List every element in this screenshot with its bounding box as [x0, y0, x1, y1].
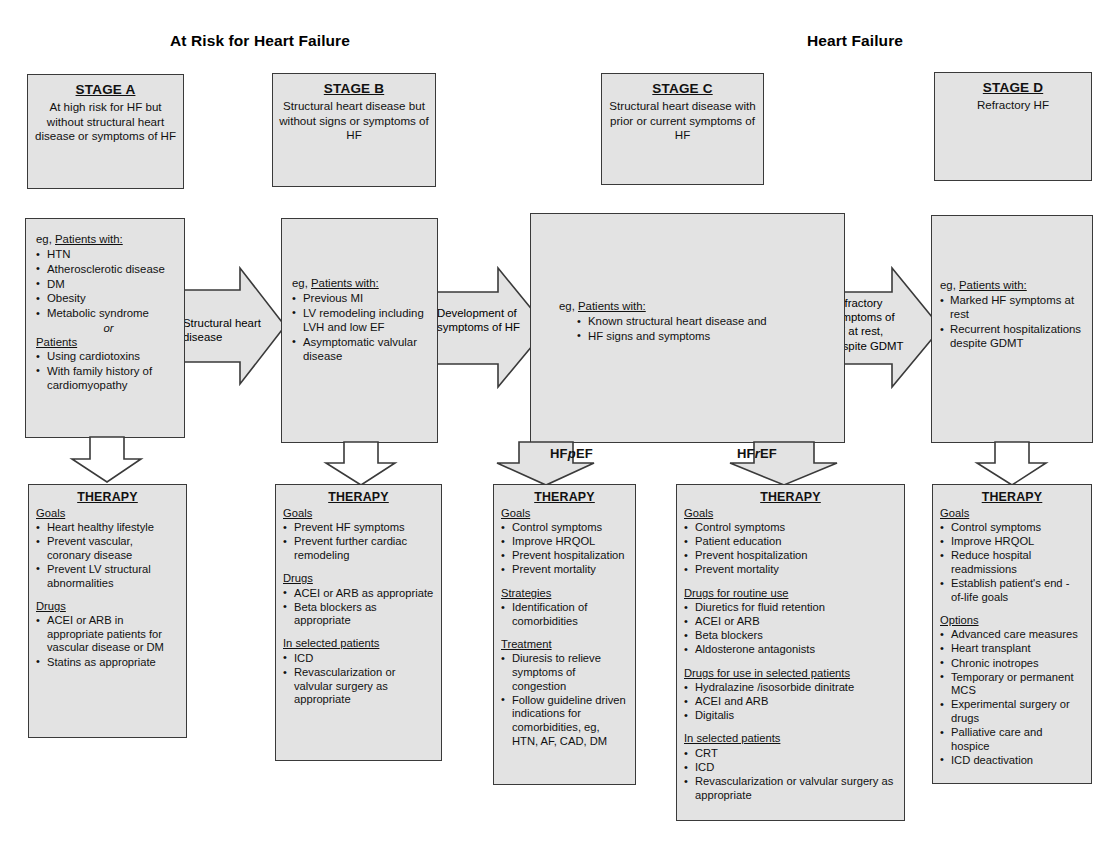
- flowchart-canvas: At Risk for Heart Failure Heart Failure …: [0, 0, 1119, 851]
- therapy-section-heading: Goals: [36, 507, 179, 521]
- list-item: ACEI and ARB: [684, 695, 897, 709]
- therapy-section-list: ACEI or ARB as appropriate Beta blockers…: [283, 587, 434, 628]
- therapy-section-heading: In selected patients: [283, 637, 434, 651]
- therapy-box-stage-d[interactable]: THERAPY Goals Control symptoms Improve H…: [932, 484, 1092, 784]
- list-item: Revascularization or valvular surgery as…: [283, 666, 434, 707]
- stage-c-description-box[interactable]: eg, Patients with: Known structural hear…: [530, 213, 845, 443]
- therapy-section-heading: Drugs for routine use: [684, 587, 897, 601]
- list-item: Identification of comorbidities: [501, 601, 628, 628]
- stage-c-box[interactable]: STAGE C Structural heart disease with pr…: [601, 73, 764, 185]
- list-item: Recurrent hospitalizations despite GDMT: [940, 322, 1085, 350]
- list-item: Metabolic syndrome: [36, 306, 175, 320]
- list-item: DM: [36, 277, 175, 291]
- list-item: Asymptomatic valvular disease: [292, 335, 429, 363]
- arrow-down-stage-b: [326, 442, 396, 486]
- therapy-section-list: Control symptoms Improve HRQOL Prevent h…: [501, 521, 628, 577]
- list-item: LV remodeling including LVH and low EF: [292, 306, 429, 334]
- list-item: Prevent mortality: [501, 563, 628, 577]
- stage-a-desc-second-lead: Patients: [36, 335, 175, 349]
- therapy-section-list: Control symptoms Improve HRQOL Reduce ho…: [940, 521, 1084, 604]
- therapy-section-list: Heart healthy lifestyle Prevent vascular…: [36, 521, 179, 590]
- therapy-section-heading: Strategies: [501, 587, 628, 601]
- stage-d-desc-list: Marked HF symptoms at rest Recurrent hos…: [940, 293, 1085, 350]
- therapy-title: THERAPY: [283, 491, 434, 505]
- spacer: [36, 591, 179, 600]
- list-item: Advanced care measures: [940, 628, 1084, 642]
- list-item: Diuretics for fluid retention: [684, 601, 897, 615]
- list-item: Improve HRQOL: [940, 535, 1084, 549]
- therapy-box-stage-b[interactable]: THERAPY Goals Prevent HF symptoms Preven…: [275, 484, 442, 761]
- list-item: HTN: [36, 247, 175, 261]
- therapy-section-heading: Options: [940, 614, 1084, 628]
- list-item: Prevent mortality: [684, 563, 897, 577]
- stage-d-box[interactable]: STAGE D Refractory HF: [934, 72, 1092, 181]
- list-item: Prevent HF symptoms: [283, 521, 434, 535]
- therapy-box-hfref[interactable]: THERAPY Goals Control symptoms Patient e…: [676, 484, 905, 821]
- therapy-box-hfpef[interactable]: THERAPY Goals Control symptoms Improve H…: [493, 484, 636, 785]
- stage-a-desc-second-list: Using cardiotoxins With family history o…: [36, 349, 175, 392]
- stage-b-title: STAGE B: [273, 81, 435, 96]
- list-item: ACEI or ARB: [684, 615, 897, 629]
- stage-d-desc-lead: eg, Patients with:: [940, 278, 1085, 292]
- stage-d-subtitle: Refractory HF: [935, 98, 1091, 113]
- stage-c-subtitle: Structural heart disease with prior or c…: [602, 99, 763, 143]
- list-item: Marked HF symptoms at rest: [940, 293, 1085, 321]
- stage-a-subtitle: At high risk for HF but without structur…: [28, 100, 183, 144]
- list-item: Control symptoms: [940, 521, 1084, 535]
- spacer: [684, 658, 897, 667]
- arrow-down-stage-a: [72, 437, 142, 483]
- therapy-section-list: Diuresis to relieve symptoms of congesti…: [501, 652, 628, 748]
- spacer: [684, 723, 897, 732]
- list-item: ICD: [684, 761, 897, 775]
- therapy-box-stage-a[interactable]: THERAPY Goals Heart healthy lifestyle Pr…: [28, 484, 187, 738]
- list-item: Reduce hospital readmissions: [940, 549, 1084, 576]
- stage-b-box[interactable]: STAGE B Structural heart disease but wit…: [272, 73, 436, 187]
- stage-d-title: STAGE D: [935, 80, 1091, 95]
- therapy-title: THERAPY: [501, 491, 628, 505]
- list-item: Heart transplant: [940, 642, 1084, 656]
- list-item: Using cardiotoxins: [36, 349, 175, 363]
- list-item: Revascularization or valvular surgery as…: [684, 775, 897, 802]
- spacer: [501, 578, 628, 587]
- list-item: Prevent LV structural abnormalities: [36, 563, 179, 590]
- stage-a-title: STAGE A: [28, 82, 183, 97]
- list-item: Statins as appropriate: [36, 656, 179, 670]
- hfpef-label: HFpEF: [550, 446, 593, 461]
- list-item: Known structural heart disease and: [577, 314, 834, 328]
- stage-a-box[interactable]: STAGE A At high risk for HF but without …: [27, 74, 184, 189]
- stage-b-description-box[interactable]: eg, Patients with: Previous MI LV remode…: [281, 218, 438, 443]
- stage-b-desc-list: Previous MI LV remodeling including LVH …: [292, 291, 429, 363]
- stage-d-description-box[interactable]: eg, Patients with: Marked HF symptoms at…: [931, 215, 1093, 443]
- spacer: [501, 629, 628, 638]
- therapy-section-heading: Drugs: [283, 572, 434, 586]
- spacer: [283, 628, 434, 637]
- stage-a-desc-lead: eg, Patients with:: [36, 232, 175, 246]
- therapy-section-list: ACEI or ARB in appropriate patients for …: [36, 614, 179, 669]
- therapy-title: THERAPY: [940, 491, 1084, 505]
- arrow-b-to-c-label: Development of symptoms of HF: [437, 306, 529, 334]
- therapy-section-heading: Drugs for use in selected patients: [684, 667, 897, 681]
- list-item: Chronic inotropes: [940, 657, 1084, 671]
- therapy-title: THERAPY: [36, 491, 179, 505]
- therapy-section-heading: Goals: [684, 507, 897, 521]
- therapy-section-heading: In selected patients: [684, 732, 897, 746]
- list-item: ACEI or ARB in appropriate patients for …: [36, 614, 179, 655]
- list-item: Prevent hospitalization: [501, 549, 628, 563]
- therapy-section-heading: Drugs: [36, 600, 179, 614]
- list-item: Establish patient's end - of-life goals: [940, 577, 1084, 604]
- spacer: [940, 605, 1084, 614]
- arrow-a-to-b-label: Structural heart disease: [183, 316, 265, 344]
- list-item: Improve HRQOL: [501, 535, 628, 549]
- therapy-section-heading: Goals: [940, 507, 1084, 521]
- list-item: Control symptoms: [501, 521, 628, 535]
- list-item: Prevent hospitalization: [684, 549, 897, 563]
- stage-b-subtitle: Structural heart disease but without sig…: [273, 99, 435, 143]
- list-item: Beta blockers as appropriate: [283, 601, 434, 628]
- hfref-label: HFrEF: [737, 446, 777, 461]
- list-item: Aldosterone antagonists: [684, 643, 897, 657]
- list-item: Diuresis to relieve symptoms of congesti…: [501, 652, 628, 693]
- stage-a-description-box[interactable]: eg, Patients with: HTN Atherosclerotic d…: [25, 218, 185, 438]
- stage-a-desc-list: HTN Atherosclerotic disease DM Obesity M…: [36, 247, 175, 320]
- list-item: Experimental surgery or drugs: [940, 698, 1084, 725]
- therapy-section-heading: Goals: [501, 507, 628, 521]
